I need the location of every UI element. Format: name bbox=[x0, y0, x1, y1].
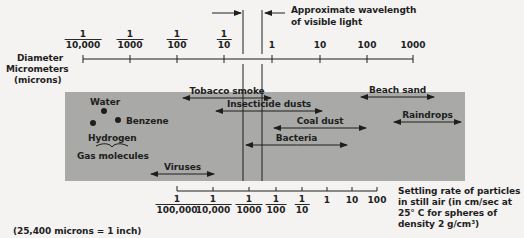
particle-label-beach-sand: Beach sand bbox=[369, 85, 426, 95]
tick-numerator: 1 bbox=[167, 29, 188, 40]
tick-numerator: 1 bbox=[195, 194, 232, 205]
particle-label-raindrops: Raindrops bbox=[402, 110, 452, 120]
tick-numerator: 1 bbox=[266, 194, 287, 205]
tick-label-fraction: 1100,000 bbox=[156, 194, 199, 215]
benzene-label: Benzene bbox=[126, 116, 169, 126]
particle-label-coal-dust: Coal dust bbox=[297, 116, 344, 126]
tick-numerator: 1 bbox=[217, 29, 232, 40]
tick-numerator: 1 bbox=[235, 194, 262, 205]
particle-label-viruses: Viruses bbox=[164, 162, 201, 172]
visible-light-label-line1: Approximate wavelength bbox=[291, 5, 416, 15]
gas-molecules-label: Gas molecules bbox=[77, 151, 149, 161]
tick-denominator: 10,000 bbox=[65, 40, 102, 50]
tick-numerator: 1 bbox=[65, 29, 102, 40]
tick-label: 100 bbox=[368, 195, 387, 205]
tick-denominator: 10 bbox=[295, 205, 310, 215]
tick-denominator: 10 bbox=[217, 40, 232, 50]
tick-label-fraction: 110,000 bbox=[65, 29, 102, 50]
tick-denominator: 100 bbox=[167, 40, 188, 50]
caption-line: 25° C for spheres of bbox=[398, 208, 497, 218]
axis-label-line: Diameter bbox=[17, 53, 63, 63]
particle-label-tobacco-smoke: Tobacco smoke bbox=[189, 86, 264, 96]
tick-numerator: 1 bbox=[295, 194, 310, 205]
tick-label: 1000 bbox=[400, 40, 425, 50]
tick-label: 10 bbox=[346, 195, 359, 205]
tick-denominator: 100,000 bbox=[156, 205, 199, 215]
tick-label: 1 bbox=[269, 40, 275, 50]
caption-line: density 2 g/cm³) bbox=[398, 219, 479, 229]
caption-line: in still air (in cm/sec at bbox=[398, 197, 512, 207]
particle-label-bacteria: Bacteria bbox=[276, 133, 317, 143]
tick-numerator: 1 bbox=[156, 194, 199, 205]
tick-denominator: 1000 bbox=[235, 205, 262, 215]
tick-label-fraction: 11000 bbox=[116, 29, 143, 50]
caption-line: Settling rate of particles bbox=[398, 186, 520, 196]
tick-label-fraction: 110 bbox=[295, 194, 310, 215]
tick-label: 100 bbox=[358, 40, 377, 50]
tick-label-fraction: 1100 bbox=[266, 194, 287, 215]
axis-label-line: (microns) bbox=[14, 75, 62, 85]
footnote: (25,400 microns = 1 inch) bbox=[13, 226, 141, 236]
tick-label: 1 bbox=[324, 195, 330, 205]
tick-label-fraction: 110 bbox=[217, 29, 232, 50]
tick-denominator: 1000 bbox=[116, 40, 143, 50]
tick-label-fraction: 110,000 bbox=[195, 194, 232, 215]
tick-denominator: 100 bbox=[266, 205, 287, 215]
tick-label-fraction: 11000 bbox=[235, 194, 262, 215]
tick-denominator: 10,000 bbox=[195, 205, 232, 215]
particle-label-insecticide-dusts: Insecticide dusts bbox=[227, 99, 311, 109]
water-label: Water bbox=[90, 97, 120, 107]
tick-numerator: 1 bbox=[116, 29, 143, 40]
hydrogen-label: Hydrogen bbox=[88, 133, 137, 143]
visible-light-label-line2: of visible light bbox=[291, 17, 362, 27]
axis-label-line: Micrometers bbox=[6, 64, 69, 74]
tick-label: 10 bbox=[314, 40, 327, 50]
tick-label-fraction: 1100 bbox=[167, 29, 188, 50]
